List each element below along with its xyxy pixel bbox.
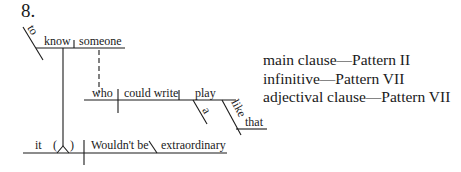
paren-open: (: [53, 138, 57, 152]
paren-close: ): [70, 138, 74, 152]
word-play: play: [195, 86, 216, 100]
word-extraordinary: extraordinary: [161, 138, 226, 152]
word-that: that: [245, 115, 264, 129]
legend-infinitive: infinitive—Pattern VII: [263, 70, 450, 89]
legend-main-clause: main clause—Pattern II: [263, 51, 450, 70]
word-to: to: [24, 22, 41, 37]
word-know: know: [44, 34, 71, 48]
word-wouldnt-be: Wouldn't be: [91, 138, 149, 152]
subject-complement-backslash: [149, 141, 157, 153]
word-a: a: [199, 105, 214, 117]
word-someone: someone: [79, 34, 122, 48]
word-who: who: [92, 86, 113, 100]
word-could-write: could write: [124, 86, 178, 100]
legend-adjectival-clause: adjectival clause—Pattern VII: [263, 88, 450, 107]
subject-fork: [57, 146, 69, 153]
pattern-legend: main clause—Pattern II infinitive—Patter…: [263, 51, 450, 107]
word-it: it: [35, 138, 42, 152]
